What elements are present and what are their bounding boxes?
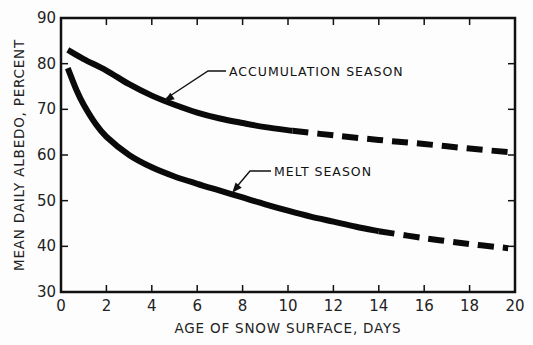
- melt-season-label: MELT SEASON: [274, 164, 372, 179]
- accumulation-season-annotation: ACCUMULATION SEASON: [164, 64, 404, 101]
- y-tick-label: 80: [37, 55, 56, 73]
- y-tick-label: 40: [37, 237, 56, 255]
- accumulation-season-dashed-line: [293, 131, 515, 153]
- melt-season-annotation: MELT SEASON: [232, 164, 372, 193]
- y-tick-label: 30: [37, 283, 56, 301]
- x-tick-label: 12: [324, 297, 343, 315]
- x-tick-label: 2: [102, 297, 112, 315]
- x-tick-label: 4: [147, 297, 157, 315]
- melt-season-dashed-line: [379, 231, 508, 248]
- y-tick-label: 50: [37, 192, 56, 210]
- x-tick-label: 6: [192, 297, 202, 315]
- arrowhead-icon: [232, 183, 241, 193]
- x-tick-label: 16: [415, 297, 434, 315]
- x-tick-label: 10: [278, 297, 297, 315]
- x-tick-label: 14: [369, 297, 388, 315]
- accumulation-season-label: ACCUMULATION SEASON: [229, 64, 404, 79]
- axis-ticks: 0246810121416182030405060708090: [37, 9, 525, 315]
- x-tick-label: 18: [460, 297, 479, 315]
- albedo-chart: 0246810121416182030405060708090 ACCUMULA…: [0, 0, 533, 345]
- accumulation-season-solid-line: [68, 50, 293, 131]
- series-lines: [68, 50, 515, 248]
- y-tick-label: 60: [37, 146, 56, 164]
- x-tick-label: 8: [238, 297, 248, 315]
- melt-season-solid-line: [68, 68, 379, 231]
- y-tick-label: 90: [37, 9, 56, 27]
- x-axis-title: AGE OF SNOW SURFACE, DAYS: [175, 320, 402, 336]
- leader-arrow-line: [166, 71, 226, 98]
- y-tick-label: 70: [37, 100, 56, 118]
- y-axis-title: MEAN DAILY ALBEDO, PERCENT: [11, 39, 27, 271]
- x-tick-label: 0: [56, 297, 66, 315]
- x-tick-label: 20: [505, 297, 524, 315]
